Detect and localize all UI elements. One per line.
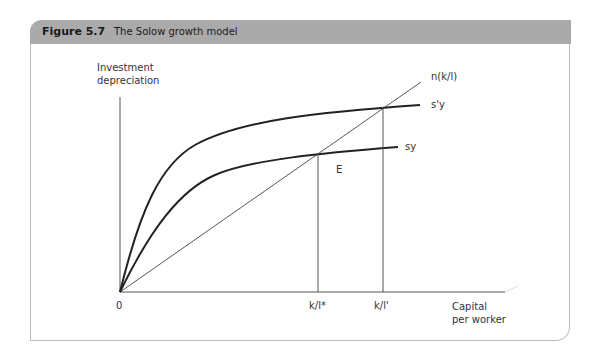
tick-label-k-prime: k/l' — [374, 299, 389, 312]
line-n-k-l — [120, 82, 421, 292]
solow-chart — [0, 0, 602, 363]
x-axis-label: Capital per worker — [452, 300, 506, 326]
x-axis-label-line1: Capital — [452, 300, 506, 313]
curve-sy — [120, 147, 398, 292]
curve-s-prime-y — [120, 105, 420, 292]
y-axis-label-line1: Investment — [97, 61, 159, 74]
label-sy: sy — [405, 140, 416, 153]
x-axis-label-line2: per worker — [452, 313, 506, 326]
y-axis-label: Investment depreciation — [97, 61, 159, 87]
label-s-prime-y: s'y — [431, 98, 445, 111]
label-equilibrium: E — [336, 163, 342, 176]
label-n-k-l: n(k/l) — [431, 70, 457, 83]
tick-label-k-star: k/l* — [309, 299, 326, 312]
x-axis-extension — [505, 286, 518, 292]
y-axis-label-line2: depreciation — [97, 74, 159, 87]
origin-label: 0 — [116, 299, 122, 312]
